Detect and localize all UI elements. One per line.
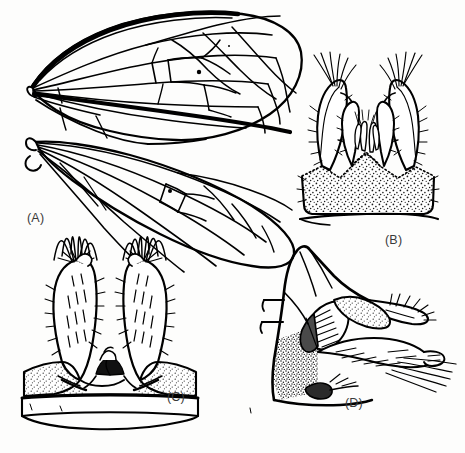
panel-label-c: (C) bbox=[167, 390, 185, 404]
plate-illustration bbox=[0, 0, 465, 453]
panel-label-d: (D) bbox=[345, 396, 363, 410]
panel-label-b: (B) bbox=[385, 233, 402, 247]
figure-plate: (A) (B) (C) (D) bbox=[0, 0, 465, 453]
stigma-spot-lower bbox=[168, 189, 172, 193]
stigma-spot-upper bbox=[197, 70, 201, 74]
panel-label-a: (A) bbox=[27, 211, 44, 225]
